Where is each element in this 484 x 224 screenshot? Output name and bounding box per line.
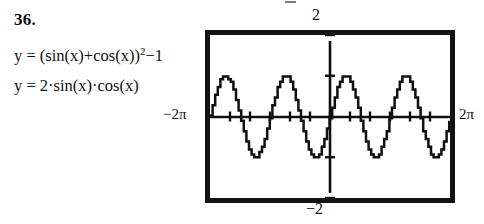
problem-number: 36. <box>14 10 36 30</box>
equation-list: y = (sin(x)+cos(x))2−1 y = 2·sin(x)·cos(… <box>14 48 209 94</box>
axis-label-y-min: −2 <box>306 200 323 218</box>
equation-1: y = (sin(x)+cos(x))2−1 <box>14 48 209 65</box>
axis-label-x-max: 2π <box>459 106 474 123</box>
scan-artifact <box>285 1 296 3</box>
equation-2: y = 2·sin(x)·cos(x) <box>14 78 209 95</box>
plot-area <box>210 35 450 198</box>
axis-label-x-min: −2π <box>163 106 187 123</box>
graph-plot <box>210 35 450 198</box>
axis-label-y-max: 2 <box>312 6 320 24</box>
graph-screen <box>205 30 455 203</box>
